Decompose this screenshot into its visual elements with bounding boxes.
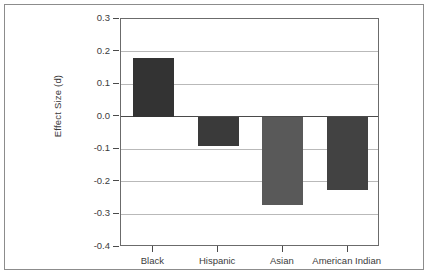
bar (198, 117, 239, 146)
y-axis-tick (113, 18, 119, 19)
y-axis-tick-label: -0.3 (94, 208, 110, 218)
bar (133, 58, 174, 117)
y-axis-tick-label: 0.1 (97, 78, 110, 88)
y-axis-tick (113, 50, 119, 51)
bar (262, 117, 303, 205)
gridline (121, 214, 378, 215)
y-axis-tick (113, 115, 119, 116)
y-axis-tick (113, 83, 119, 84)
x-axis-tick (282, 246, 283, 252)
y-axis-tick-label: -0.2 (94, 176, 110, 186)
x-axis-tick (347, 246, 348, 252)
y-axis-title: Effect Size (d) (52, 75, 63, 138)
y-axis-tick-label-wrap: 0.1 (78, 78, 110, 88)
x-axis-tick (152, 246, 153, 252)
x-axis-tick (217, 246, 218, 252)
y-axis-tick-label: 0.0 (97, 111, 110, 121)
y-axis-tick-label-wrap: -0.4 (78, 241, 110, 251)
y-axis-tick-label-wrap: -0.1 (78, 143, 110, 153)
x-axis-tick-label: American Indian (287, 255, 407, 266)
y-axis-tick-label: -0.4 (94, 241, 110, 251)
y-axis-tick-label-wrap: 0.2 (78, 46, 110, 56)
y-axis-tick (113, 180, 119, 181)
y-axis-tick-label: -0.1 (94, 143, 110, 153)
y-axis-tick (113, 246, 119, 247)
y-axis-tick (113, 148, 119, 149)
y-axis-tick-label-wrap: 0.0 (78, 111, 110, 121)
y-axis-tick-label-wrap: 0.3 (78, 13, 110, 23)
y-axis-tick-label: 0.3 (97, 13, 110, 23)
chart-figure: Effect Size (d) 0.30.20.10.0-0.1-0.2-0.3… (0, 0, 433, 279)
bar (327, 117, 368, 190)
gridline (121, 51, 378, 52)
y-axis-tick (113, 213, 119, 214)
plot-area (120, 18, 379, 246)
y-axis-tick-label-wrap: -0.2 (78, 176, 110, 186)
y-axis-tick-label-wrap: -0.3 (78, 208, 110, 218)
y-axis-tick-label: 0.2 (97, 46, 110, 56)
